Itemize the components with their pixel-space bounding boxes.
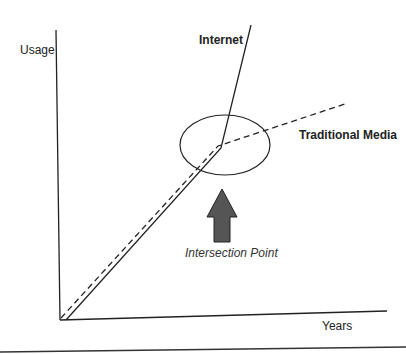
page-bottom-rule — [0, 347, 406, 352]
y-axis — [56, 30, 60, 320]
x-axis-label: Years — [322, 319, 352, 333]
intersection-ellipse — [180, 115, 270, 175]
intersection-point-label: Intersection Point — [185, 246, 278, 260]
y-axis-label: Usage — [20, 43, 55, 57]
internet-line — [66, 25, 251, 320]
diagram-canvas — [0, 0, 406, 354]
internet-label: Internet — [199, 33, 243, 47]
traditional-media-label: Traditional Media — [299, 128, 397, 142]
up-arrow-icon — [207, 189, 237, 242]
